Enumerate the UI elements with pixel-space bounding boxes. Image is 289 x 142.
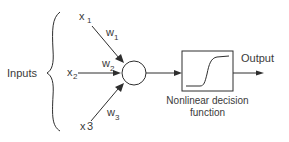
svg-text:w: w (101, 57, 110, 69)
inputs-label: Inputs (7, 67, 37, 79)
arrowhead-x2-icon (113, 70, 121, 76)
svg-text:3: 3 (115, 113, 120, 122)
weight-w2: w 2 (101, 57, 115, 73)
function-caption-line2: function (190, 107, 225, 118)
weight-w3: w 3 (106, 106, 120, 122)
input-x1: x 1 (79, 10, 92, 25)
svg-text:1: 1 (114, 33, 119, 42)
sigmoid-curve-icon (186, 56, 229, 86)
svg-text:w: w (106, 106, 115, 118)
weight-w1: w 1 (105, 26, 119, 42)
arrowhead-node-icon (174, 70, 182, 76)
svg-text:1: 1 (87, 16, 92, 25)
svg-text:w: w (105, 26, 114, 38)
output-label: Output (241, 52, 274, 64)
svg-text:2: 2 (73, 72, 78, 81)
input-x3: x 3 (80, 120, 93, 132)
svg-text:x: x (80, 120, 86, 132)
summation-node (122, 61, 146, 85)
neuron-diagram: Inputs x 1 w 1 x 2 w 2 x 3 w 3 Output (0, 0, 289, 142)
inputs-brace (47, 12, 60, 131)
arrowhead-output-icon (256, 71, 264, 76)
svg-text:x: x (79, 10, 85, 22)
input-x2: x 2 (67, 66, 78, 81)
svg-text:3: 3 (87, 120, 93, 132)
function-caption-line1: Nonlinear decision (166, 95, 248, 106)
